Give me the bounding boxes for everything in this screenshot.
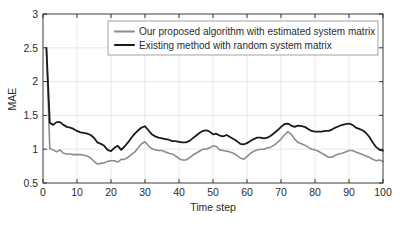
chart-legend: Our proposed algorithm with estimated sy… <box>108 21 378 55</box>
x-tick-label: 90 <box>343 186 355 198</box>
line-chart: 01020304050607080901000.511.522.53 Time … <box>0 0 404 227</box>
x-tick-label: 60 <box>241 186 253 198</box>
x-tick-label: 80 <box>309 186 321 198</box>
series-line-existing <box>46 48 383 151</box>
y-tick-label: 1 <box>32 143 38 155</box>
y-axis-title: MAE <box>6 88 18 111</box>
x-tick-label: 40 <box>173 186 185 198</box>
y-tick-label: 2.5 <box>23 42 38 54</box>
y-tick-label: 2 <box>32 75 38 87</box>
x-tick-label: 10 <box>71 186 83 198</box>
x-axis-title: Time step <box>190 201 236 213</box>
y-tick-label: 1.5 <box>23 109 38 121</box>
x-tick-label: 70 <box>275 186 287 198</box>
y-tick-label: 3 <box>32 8 38 20</box>
chart-figure: 01020304050607080901000.511.522.53 Time … <box>0 0 404 227</box>
x-tick-label: 50 <box>207 186 219 198</box>
x-tick-label: 0 <box>40 186 46 198</box>
x-tick-label: 100 <box>374 186 392 198</box>
legend-label-proposed: Our proposed algorithm with estimated sy… <box>139 26 375 37</box>
x-tick-label: 20 <box>105 186 117 198</box>
y-tick-label: 0.5 <box>23 177 38 189</box>
series-line-proposed <box>46 48 383 164</box>
series-lines <box>46 48 383 164</box>
legend-label-existing: Existing method with random system matri… <box>139 40 332 51</box>
x-tick-label: 30 <box>139 186 151 198</box>
